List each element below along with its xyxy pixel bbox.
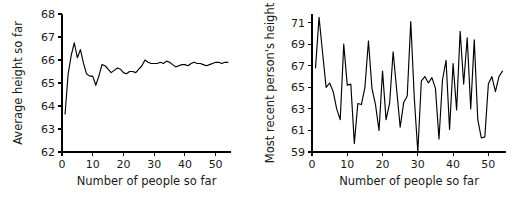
x-axis-tick-label: 10: [86, 158, 100, 171]
y-axis-tick-label: 68: [41, 8, 55, 21]
x-axis-tick-label: 40: [446, 158, 460, 171]
data-series-line: [65, 43, 228, 114]
x-axis-tick-label: 20: [376, 158, 390, 171]
y-axis-tick-label: 65: [41, 77, 55, 90]
y-axis-title: Most recent person's height: [263, 2, 277, 163]
x-axis-title: Number of people so far: [339, 174, 479, 188]
x-axis-tick-label: 10: [340, 158, 354, 171]
y-axis-tick-label: 64: [41, 100, 55, 113]
y-axis-tick-label: 61: [291, 124, 305, 137]
x-axis-tick-label: 50: [209, 158, 223, 171]
data-series-line: [316, 17, 503, 152]
x-axis-tick-label: 40: [178, 158, 192, 171]
y-axis-tick-label: 63: [291, 103, 305, 116]
chart-panel-average-height: 6263646566676801020304050Number of peopl…: [0, 0, 260, 204]
most-recent-height-plot: 5961636567697101020304050Number of peopl…: [260, 0, 521, 204]
x-axis-tick-label: 0: [59, 158, 66, 171]
x-axis-tick-label: 20: [116, 158, 130, 171]
y-axis-tick-label: 63: [41, 123, 55, 136]
x-axis-tick-label: 50: [481, 158, 495, 171]
y-axis-tick-label: 67: [41, 31, 55, 44]
x-axis-tick-label: 30: [411, 158, 425, 171]
y-axis-tick-label: 66: [41, 54, 55, 67]
x-axis-tick-label: 0: [309, 158, 316, 171]
y-axis-tick-label: 69: [291, 38, 305, 51]
y-axis-tick-label: 65: [291, 81, 305, 94]
y-axis-tick-label: 67: [291, 60, 305, 73]
y-axis-tick-label: 59: [291, 146, 305, 159]
x-axis-tick-label: 30: [147, 158, 161, 171]
y-axis-tick-label: 62: [41, 146, 55, 159]
x-axis-title: Number of people so far: [77, 174, 217, 188]
y-axis-title: Average height so far: [11, 21, 25, 145]
average-height-plot: 6263646566676801020304050Number of peopl…: [0, 0, 260, 204]
figure-root: 6263646566676801020304050Number of peopl…: [0, 0, 521, 204]
y-axis-tick-label: 71: [291, 17, 305, 30]
chart-panel-recent-height: 5961636567697101020304050Number of peopl…: [260, 0, 521, 204]
